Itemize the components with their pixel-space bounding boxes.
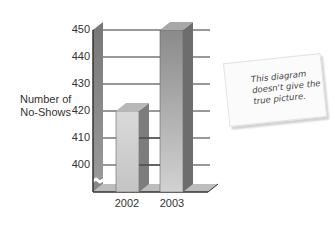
y-tick-420: 420 (68, 104, 90, 116)
y-axis-label-line2: No-Shows (20, 106, 71, 119)
bar-2002 (116, 103, 149, 192)
x-tick-2002: 2002 (112, 197, 142, 209)
y-tick-450: 450 (68, 23, 90, 35)
y-tick-410: 410 (68, 131, 90, 143)
floor (93, 184, 218, 192)
y-tick-400: 400 (68, 158, 90, 170)
y-axis-label: Number of No-Shows (20, 93, 71, 119)
y-axis-label-line1: Number of (20, 93, 71, 106)
y-tick-440: 440 (68, 50, 90, 62)
y-axis-wall (90, 22, 106, 192)
x-tick-2003: 2003 (157, 197, 187, 209)
y-tick-430: 430 (68, 77, 90, 89)
bar-2003 (160, 22, 193, 192)
